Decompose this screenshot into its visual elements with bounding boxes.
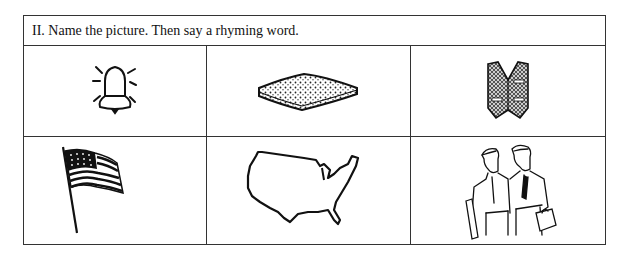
flag-icon	[55, 143, 135, 238]
sponge-icon	[254, 66, 364, 116]
usa-map-icon	[244, 148, 374, 233]
vest-icon	[484, 60, 532, 122]
picture-cell-flag	[24, 137, 207, 244]
bell-icon	[80, 61, 150, 121]
picture-grid	[24, 46, 605, 244]
picture-cell-map	[207, 137, 411, 244]
instruction-text: II. Name the picture. Then say a rhyming…	[24, 16, 605, 46]
picture-cell-sponge	[207, 46, 411, 137]
worksheet-section: II. Name the picture. Then say a rhyming…	[23, 15, 606, 245]
picture-cell-bell	[24, 46, 207, 137]
picture-cell-men	[411, 137, 605, 244]
two-men-icon	[458, 141, 558, 241]
picture-cell-vest	[411, 46, 605, 137]
